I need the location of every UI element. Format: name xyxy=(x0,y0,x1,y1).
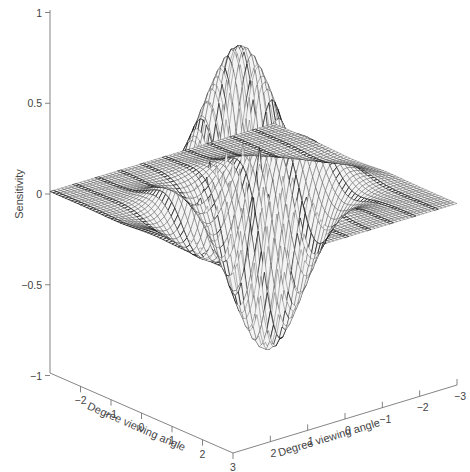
y-axis-title: Degree viewing angle xyxy=(276,416,381,458)
y-tick-label: −1 xyxy=(379,413,391,425)
z-axis-title: Sensitivity xyxy=(13,169,25,219)
z-tick-label: −1 xyxy=(30,370,42,382)
z-tick-label: 0 xyxy=(36,188,42,200)
y-tick-label: −3 xyxy=(454,390,466,402)
x-tick-label: −2 xyxy=(75,394,87,406)
z-tick-label: 0.5 xyxy=(27,97,42,109)
z-tick-label: −0.5 xyxy=(21,279,42,291)
z-tick-label: 1 xyxy=(36,7,42,19)
y-tick-label: 2 xyxy=(270,447,276,459)
surface-mesh xyxy=(50,46,457,350)
x-tick-label: 2 xyxy=(200,448,206,460)
x-tick-label: 3 xyxy=(230,461,236,472)
surface-plot: 10.50−0.5−1 −2−10123 210−1−2−3 Sensitivi… xyxy=(0,0,470,472)
y-tick-label: −2 xyxy=(417,401,429,413)
z-axis-ticks: 10.50−0.5−1 xyxy=(21,7,50,382)
